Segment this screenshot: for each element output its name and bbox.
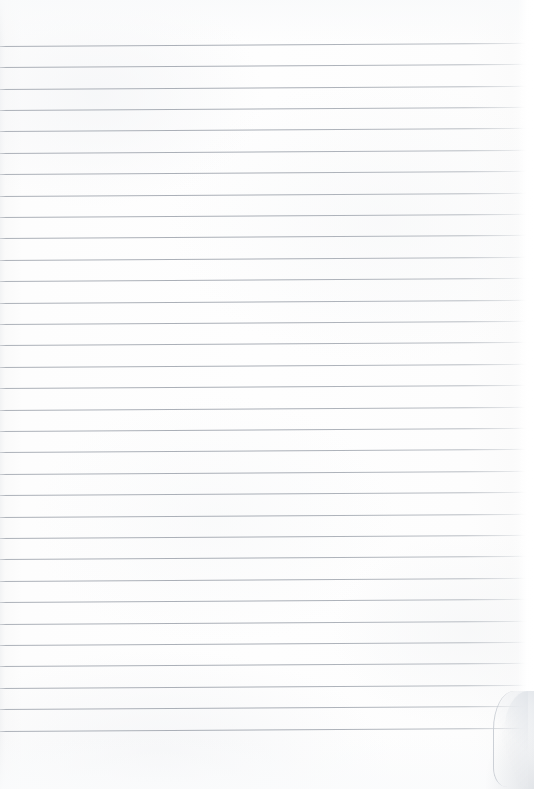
rule-line — [0, 235, 528, 239]
rule-line — [0, 257, 528, 261]
rule-line — [0, 321, 528, 325]
rule-line — [0, 728, 528, 732]
rule-line — [0, 449, 528, 453]
rule-line — [0, 150, 528, 154]
rule-line — [0, 64, 528, 68]
rule-line — [0, 407, 528, 411]
rule-line — [0, 642, 528, 646]
rule-line — [0, 171, 528, 175]
rule-line — [0, 514, 528, 518]
ruled-lines-group — [0, 0, 534, 789]
rule-line — [0, 556, 528, 560]
rule-line — [0, 706, 528, 710]
rule-line — [0, 342, 528, 346]
rule-line — [0, 300, 528, 304]
rule-line — [0, 578, 528, 582]
rule-line — [0, 278, 528, 282]
rule-line — [0, 535, 528, 539]
rule-line — [0, 599, 528, 603]
rule-line — [0, 86, 528, 90]
rule-line — [0, 685, 528, 689]
rule-line — [0, 107, 528, 111]
rule-line — [0, 43, 528, 47]
rule-line — [0, 471, 528, 475]
rule-line — [0, 385, 528, 389]
rule-line — [0, 428, 528, 432]
rule-line — [0, 214, 528, 218]
rule-line — [0, 193, 528, 197]
notebook-page — [0, 0, 534, 789]
rule-line — [0, 128, 528, 132]
rule-line — [0, 364, 528, 368]
rule-line — [0, 492, 528, 496]
rule-line — [0, 621, 528, 625]
rule-line — [0, 663, 528, 667]
